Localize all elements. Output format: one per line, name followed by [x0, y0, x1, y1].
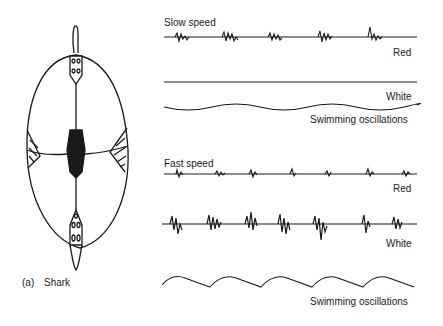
fast-speed-title: Fast speed	[164, 158, 213, 169]
fast-white-label: White	[386, 238, 412, 249]
slow-swimming-oscillation-wave	[164, 103, 420, 110]
shark-cross-section	[27, 26, 128, 270]
panel-label: (a)	[22, 277, 34, 288]
slow-oscillation-label: Swimming oscillations	[310, 114, 408, 125]
fast-swimming-oscillation-wave	[162, 277, 414, 287]
slow-speed-title: Slow speed	[164, 17, 216, 28]
fast-oscillation-label: Swimming oscillations	[310, 296, 408, 307]
fast-white-emg-trace	[162, 212, 417, 240]
fast-red-label: Red	[393, 183, 411, 194]
slow-white-label: White	[386, 91, 412, 102]
slow-red-emg-trace	[164, 27, 417, 42]
slow-red-label: Red	[393, 47, 411, 58]
fast-red-emg-trace	[164, 169, 417, 177]
animal-label: Shark	[44, 277, 70, 288]
